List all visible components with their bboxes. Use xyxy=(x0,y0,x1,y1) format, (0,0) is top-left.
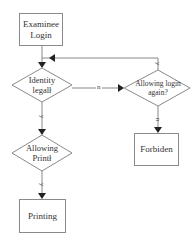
node-label: Printing xyxy=(28,211,57,222)
edge-label-no: n xyxy=(96,84,102,91)
node-label: Allowing xyxy=(26,143,58,153)
edge-label-no: n xyxy=(154,118,161,122)
node-label: legalł xyxy=(33,85,52,95)
node-label: again? xyxy=(148,88,168,97)
edge-label-yes: y xyxy=(38,183,45,187)
node-forbidden: Forbiden xyxy=(134,133,179,166)
node-label: Printł xyxy=(33,153,52,163)
node-label: Examinee xyxy=(23,19,59,30)
diamond-allow-login-label: Allowing login again? xyxy=(128,78,188,98)
edge-label-yes: y xyxy=(154,62,161,66)
node-examinee-login: Examinee Login xyxy=(19,13,63,46)
node-label: Identity xyxy=(29,75,55,85)
node-printing: Printing xyxy=(19,199,66,233)
edge-retry-login xyxy=(50,58,158,70)
edge-label-yes: y xyxy=(38,115,45,119)
node-label: Login xyxy=(30,30,52,41)
diamond-allow-print-label: Allowing Printł xyxy=(17,141,67,165)
node-label: Allowing login xyxy=(135,79,181,88)
node-label: Forbiden xyxy=(140,144,173,155)
diamond-identity-label: Identity legalł xyxy=(17,74,67,96)
